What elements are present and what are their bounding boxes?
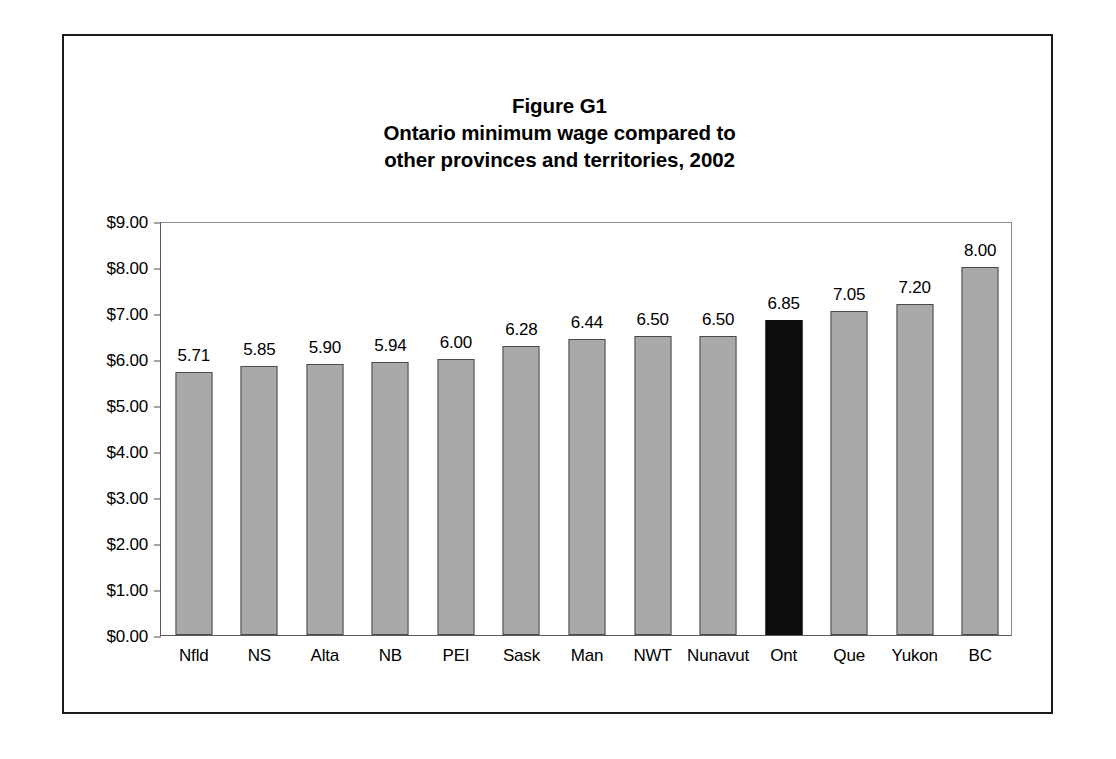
y-axis-tick: $8.00 bbox=[106, 260, 161, 278]
bar-group: 8.00BC bbox=[947, 223, 1013, 635]
bar-value-label: 6.00 bbox=[440, 334, 472, 351]
bar-group: 6.44Man bbox=[554, 223, 620, 635]
bar-man[interactable] bbox=[568, 339, 605, 635]
bar-group: 7.20Yukon bbox=[882, 223, 948, 635]
bar-value-label: 8.00 bbox=[964, 242, 996, 259]
bar-ns[interactable] bbox=[241, 366, 278, 635]
bar-group: 5.85NS bbox=[227, 223, 293, 635]
bar-sask[interactable] bbox=[503, 346, 540, 635]
x-axis-label-man: Man bbox=[571, 647, 603, 665]
y-axis-tick-mark bbox=[154, 591, 161, 592]
y-axis-tick: $3.00 bbox=[106, 490, 161, 508]
y-axis-tick-label: $4.00 bbox=[106, 444, 161, 461]
bar-bc[interactable] bbox=[962, 267, 999, 635]
bar-value-label: 5.90 bbox=[309, 339, 341, 356]
x-axis-label-sask: Sask bbox=[503, 647, 540, 665]
y-axis-tick-label: $8.00 bbox=[106, 260, 161, 277]
bar-value-label: 5.94 bbox=[374, 337, 406, 354]
y-axis-tick-mark bbox=[154, 453, 161, 454]
bar-series: 5.71Nfld5.85NS5.90Alta5.94NB6.00PEI6.28S… bbox=[161, 223, 1011, 635]
bar-group: 5.90Alta bbox=[292, 223, 358, 635]
chart-title-line-1: Figure G1 bbox=[64, 92, 1055, 119]
bar-nunavut[interactable] bbox=[700, 336, 737, 635]
x-axis-label-nb: NB bbox=[379, 647, 402, 665]
bar-group: 5.71Nfld bbox=[161, 223, 227, 635]
figure-page-frame: Figure G1 Ontario minimum wage compared … bbox=[62, 34, 1053, 714]
y-axis-tick: $2.00 bbox=[106, 536, 161, 554]
chart-title-line-3: other provinces and territories, 2002 bbox=[64, 146, 1055, 173]
bar-nfld[interactable] bbox=[175, 372, 212, 635]
x-axis-label-nfld: Nfld bbox=[179, 647, 208, 665]
bar-group: 6.85Ont bbox=[751, 223, 817, 635]
chart-title: Figure G1 Ontario minimum wage compared … bbox=[64, 92, 1055, 173]
y-axis-tick-label: $5.00 bbox=[106, 398, 161, 415]
bar-group: 5.94NB bbox=[358, 223, 424, 635]
y-axis-tick-mark bbox=[154, 637, 161, 638]
y-axis-tick: $0.00 bbox=[106, 628, 161, 646]
y-axis-tick: $7.00 bbox=[106, 306, 161, 324]
y-axis-tick: $4.00 bbox=[106, 444, 161, 462]
y-axis-tick-label: $1.00 bbox=[106, 582, 161, 599]
bar-que[interactable] bbox=[831, 311, 868, 635]
bar-value-label: 6.85 bbox=[767, 295, 799, 312]
bar-group: 6.50NWT bbox=[620, 223, 686, 635]
bar-group: 6.00PEI bbox=[423, 223, 489, 635]
y-axis-tick: $6.00 bbox=[106, 352, 161, 370]
x-axis-label-bc: BC bbox=[969, 647, 992, 665]
bar-group: 6.28Sask bbox=[489, 223, 555, 635]
y-axis-tick-mark bbox=[154, 545, 161, 546]
bar-value-label: 5.71 bbox=[178, 347, 210, 364]
bar-group: 7.05Que bbox=[816, 223, 882, 635]
y-axis-tick-label: $7.00 bbox=[106, 306, 161, 323]
bar-value-label: 7.05 bbox=[833, 286, 865, 303]
x-axis-label-pei: PEI bbox=[443, 647, 470, 665]
y-axis-tick-label: $0.00 bbox=[106, 628, 161, 645]
bar-nwt[interactable] bbox=[634, 336, 671, 635]
y-axis-tick-label: $2.00 bbox=[106, 536, 161, 553]
y-axis-tick-label: $6.00 bbox=[106, 352, 161, 369]
bar-nb[interactable] bbox=[372, 362, 409, 635]
x-axis-label-nunavut: Nunavut bbox=[687, 647, 749, 665]
bar-value-label: 6.28 bbox=[505, 321, 537, 338]
bar-ont[interactable] bbox=[765, 320, 802, 635]
bar-value-label: 6.50 bbox=[702, 311, 734, 328]
y-axis-tick: $9.00 bbox=[106, 214, 161, 232]
plot-area: $0.00$1.00$2.00$3.00$4.00$5.00$6.00$7.00… bbox=[160, 222, 1012, 636]
x-axis-label-nwt: NWT bbox=[633, 647, 671, 665]
y-axis-tick-mark bbox=[154, 499, 161, 500]
bar-value-label: 5.85 bbox=[243, 341, 275, 358]
bar-group: 6.50Nunavut bbox=[685, 223, 751, 635]
y-axis-tick-label: $9.00 bbox=[106, 214, 161, 231]
y-axis-tick-mark bbox=[154, 407, 161, 408]
y-axis-tick: $5.00 bbox=[106, 398, 161, 416]
bar-value-label: 6.50 bbox=[636, 311, 668, 328]
x-axis-label-que: Que bbox=[833, 647, 865, 665]
x-axis-label-ns: NS bbox=[248, 647, 271, 665]
bar-yukon[interactable] bbox=[896, 304, 933, 635]
x-axis-label-alta: Alta bbox=[311, 647, 340, 665]
y-axis-tick-mark bbox=[154, 361, 161, 362]
chart-title-line-2: Ontario minimum wage compared to bbox=[64, 119, 1055, 146]
y-axis-tick-mark bbox=[154, 315, 161, 316]
y-axis-tick-mark bbox=[154, 223, 161, 224]
x-axis-label-ont: Ont bbox=[770, 647, 797, 665]
x-axis-label-yukon: Yukon bbox=[892, 647, 938, 665]
y-axis-tick-mark bbox=[154, 269, 161, 270]
bar-pei[interactable] bbox=[437, 359, 474, 635]
bar-value-label: 6.44 bbox=[571, 314, 603, 331]
y-axis-tick: $1.00 bbox=[106, 582, 161, 600]
y-axis-tick-label: $3.00 bbox=[106, 490, 161, 507]
bar-alta[interactable] bbox=[306, 364, 343, 635]
bar-value-label: 7.20 bbox=[899, 279, 931, 296]
